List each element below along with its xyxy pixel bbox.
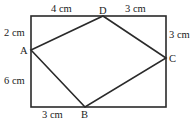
label-point-A: A	[20, 45, 28, 56]
label-point-D: D	[99, 5, 107, 16]
label-top-left-measure: 4 cm	[51, 3, 72, 14]
label-point-C: C	[169, 53, 176, 64]
label-left-lower-measure: 6 cm	[4, 75, 25, 86]
label-top-right-measure: 3 cm	[125, 3, 146, 14]
label-bottom-left-measure: 3 cm	[42, 109, 63, 119]
label-left-upper-measure: 2 cm	[4, 27, 25, 38]
outer-rectangle	[31, 16, 166, 107]
geometry-diagram: 4 cm D 3 cm 2 cm 3 cm A C 6 cm 3 cm B	[0, 0, 192, 119]
label-point-B: B	[81, 109, 88, 119]
quadrilateral-ABCD	[31, 16, 166, 107]
label-right-upper-measure: 3 cm	[169, 29, 190, 40]
